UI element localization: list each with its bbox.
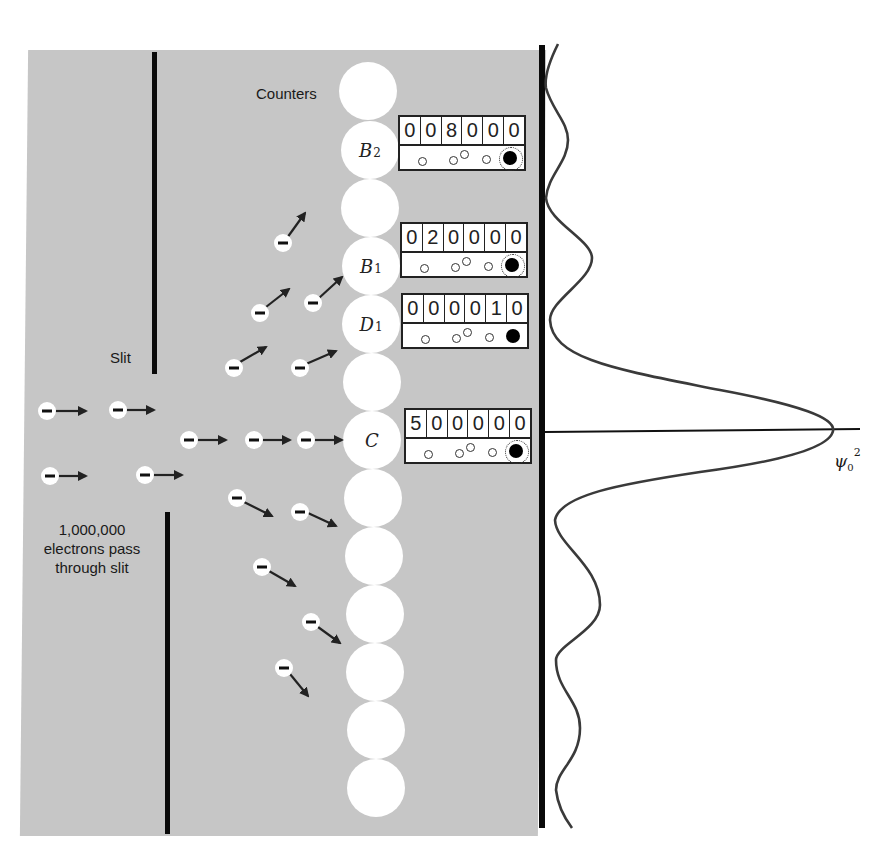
electron-icon [180, 431, 198, 449]
electron-icon [245, 431, 263, 449]
electron-icon [297, 431, 315, 449]
electron-icon [41, 467, 59, 485]
electron-icon [302, 613, 320, 631]
electron-icon [291, 359, 309, 377]
electron-icon [38, 402, 56, 420]
electrons-incoming [55, 213, 342, 696]
electron-icon [304, 294, 322, 312]
electron-icon [228, 489, 246, 507]
electron-icon [251, 304, 269, 322]
electron-icon [274, 234, 292, 252]
electron-icon [109, 401, 127, 419]
electron-diffraction-diagram: Counters Slit 1,000,000 electrons pass t… [0, 0, 892, 864]
electron-icon [291, 503, 309, 521]
electron-icon [253, 558, 271, 576]
overlay-graphics [0, 0, 892, 864]
electron-icon [275, 659, 293, 677]
probability-curve [546, 44, 834, 828]
psi-subscript: 0 [847, 462, 853, 473]
electron-particles [38, 234, 322, 677]
probability-axis [545, 429, 860, 432]
psi-symbol: ψ [834, 451, 847, 471]
electron-icon [225, 359, 243, 377]
psi-superscript: 2 [854, 446, 861, 459]
probability-label: ψ02 [834, 447, 861, 477]
electron-icon [136, 466, 154, 484]
